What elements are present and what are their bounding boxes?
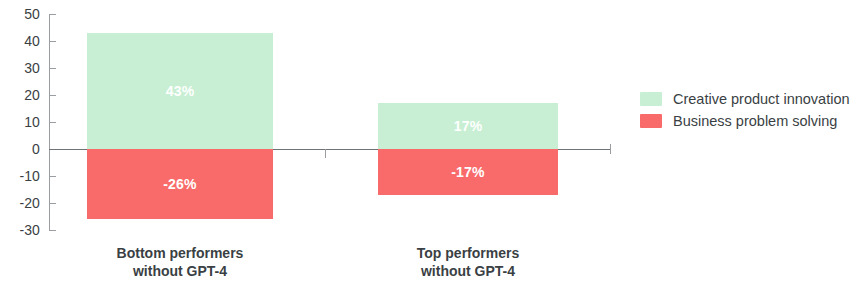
category-divider-tick <box>325 149 326 158</box>
y-tick-label: -10 <box>4 169 40 183</box>
x-axis-end-tick <box>610 144 611 154</box>
bar-segment[interactable]: 17% <box>378 103 558 149</box>
y-tick <box>49 95 56 96</box>
y-tick <box>49 14 56 15</box>
legend-item-creative-product-innovation[interactable]: Creative product innovation <box>640 88 850 110</box>
bar-segment[interactable]: -17% <box>378 149 558 195</box>
y-tick-label: 20 <box>4 88 40 102</box>
y-tick <box>49 230 56 231</box>
y-tick-label: 10 <box>4 115 40 129</box>
category-label-line: without GPT-4 <box>47 262 313 280</box>
bar-value-label: 43% <box>87 84 273 98</box>
legend-swatch-green <box>640 92 662 106</box>
category-label-line: Bottom performers <box>47 244 313 262</box>
bar-value-label: 17% <box>378 119 558 133</box>
category-label-line: Top performers <box>338 244 598 262</box>
y-tick <box>49 68 56 69</box>
y-tick <box>49 122 56 123</box>
bar-chart: 50403020100-10-20-30 43%-26%17%-17% Bott… <box>0 0 858 284</box>
legend-label: Creative product innovation <box>673 91 850 107</box>
y-tick-label: 30 <box>4 61 40 75</box>
bar-value-label: -26% <box>87 177 273 191</box>
category-label-line: without GPT-4 <box>338 262 598 280</box>
y-tick-label: 0 <box>4 142 40 156</box>
y-tick-label: 40 <box>4 34 40 48</box>
y-tick <box>49 203 56 204</box>
y-tick-label: -20 <box>4 196 40 210</box>
chart-legend: Creative product innovation Business pro… <box>640 88 850 132</box>
y-tick <box>49 176 56 177</box>
legend-item-business-problem-solving[interactable]: Business problem solving <box>640 110 850 132</box>
y-tick-label: -30 <box>4 223 40 237</box>
category-label: Top performerswithout GPT-4 <box>338 244 598 280</box>
category-label: Bottom performerswithout GPT-4 <box>47 244 313 280</box>
y-tick <box>49 41 56 42</box>
bar-segment[interactable]: 43% <box>87 33 273 149</box>
bar-value-label: -17% <box>378 165 558 179</box>
plot-area: 50403020100-10-20-30 43%-26%17%-17% Bott… <box>0 0 858 284</box>
legend-swatch-red <box>640 114 662 128</box>
legend-label: Business problem solving <box>673 113 837 129</box>
bar-segment[interactable]: -26% <box>87 149 273 219</box>
y-tick-label: 50 <box>4 7 40 21</box>
